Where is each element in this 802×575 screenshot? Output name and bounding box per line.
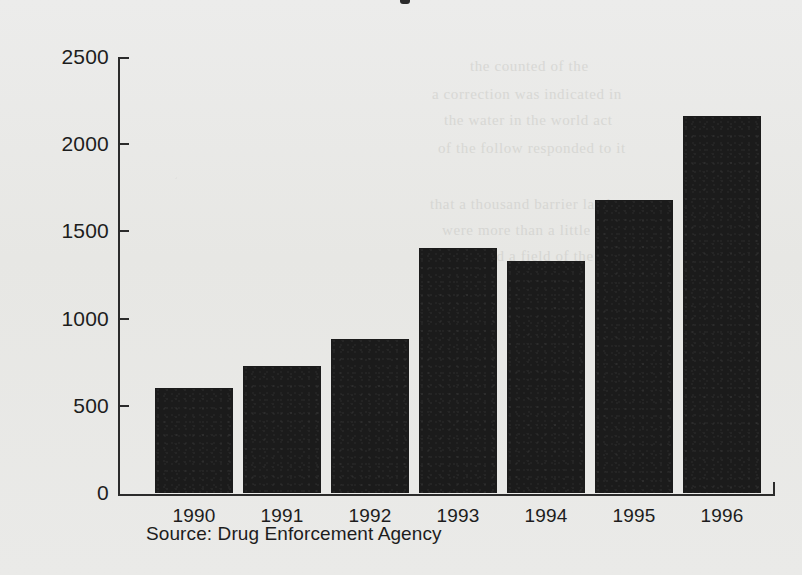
x-axis-right-cap xyxy=(773,482,775,496)
bar-1994[interactable] xyxy=(507,261,585,493)
bar-chart-figure: the counted of thea correction was indic… xyxy=(0,0,802,575)
source-note: Source: Drug Enforcement Agency xyxy=(146,523,442,545)
y-axis-line xyxy=(118,57,120,495)
y-tick-mark xyxy=(118,405,129,407)
y-tick-label: 1000 xyxy=(61,307,109,331)
bar-1995[interactable] xyxy=(595,200,673,493)
y-tick-label: 500 xyxy=(73,394,109,418)
x-tick-label-1993: 1993 xyxy=(436,505,479,527)
plot-area: 05001000150020002500 1990199119921993199… xyxy=(118,57,775,495)
x-tick-label-1995: 1995 xyxy=(612,505,655,527)
y-tick-label: 2500 xyxy=(61,45,109,69)
y-tick-label: 2000 xyxy=(61,132,109,156)
x-tick-label-1994: 1994 xyxy=(524,505,567,527)
x-axis-line xyxy=(118,494,775,496)
x-tick-label-1996: 1996 xyxy=(700,505,743,527)
bar-1990[interactable] xyxy=(155,388,233,494)
y-axis-top-cap xyxy=(118,57,129,59)
y-tick-label: 0 xyxy=(97,481,109,505)
bar-1992[interactable] xyxy=(331,339,409,493)
y-tick-mark xyxy=(118,230,129,232)
bar-1991[interactable] xyxy=(243,366,321,493)
bar-1996[interactable] xyxy=(683,116,761,493)
y-tick-mark xyxy=(118,143,129,145)
page-crop-mark xyxy=(400,0,410,4)
y-tick-label: 1500 xyxy=(61,219,109,243)
bar-1993[interactable] xyxy=(419,248,497,493)
y-tick-mark xyxy=(118,318,129,320)
